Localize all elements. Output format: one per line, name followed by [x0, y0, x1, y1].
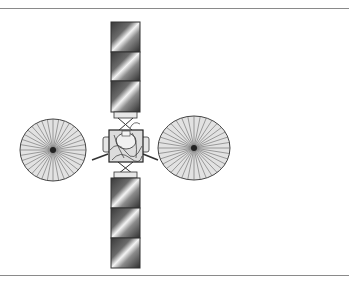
solar-panel-lower [111, 162, 140, 268]
dish-antenna-left [20, 119, 86, 181]
figure-frame [0, 0, 349, 282]
dish-antenna-right [158, 116, 230, 180]
solar-panel-upper [111, 22, 140, 131]
satellite-bus [103, 123, 149, 162]
satellite-illustration [0, 0, 349, 282]
